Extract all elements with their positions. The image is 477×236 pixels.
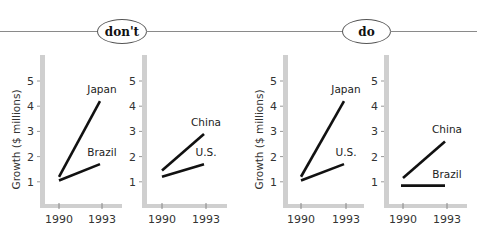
x-axis	[142, 204, 227, 208]
y-tick-label: 3	[129, 125, 136, 138]
line-chart-2: 1234519901993ChinaU.S.	[129, 55, 227, 226]
y-tick-label: 1	[270, 176, 277, 189]
y-tick-label: 5	[270, 75, 277, 88]
y-tick-label: 4	[270, 100, 277, 113]
y-axis-label: Growth ($ millions)	[10, 89, 22, 189]
series-label: Japan	[86, 83, 116, 95]
y-axis	[142, 55, 147, 208]
x-tick-label: 1990	[148, 213, 176, 226]
y-tick-label: 5	[371, 75, 378, 88]
line-chart-3: 1234519901993Growth ($ millions)JapanU.S…	[253, 55, 364, 226]
x-axis	[40, 204, 122, 208]
x-tick-label: 1990	[389, 213, 417, 226]
series-label: Brazil	[87, 146, 116, 158]
y-tick-label: 4	[129, 100, 136, 113]
y-tick-label: 2	[129, 151, 136, 164]
x-tick-label: 1993	[88, 213, 116, 226]
y-tick-label: 5	[27, 75, 34, 88]
y-tick-label: 4	[371, 100, 378, 113]
y-tick-label: 2	[371, 151, 378, 164]
series-label: U.S.	[335, 146, 356, 158]
series-label: China	[432, 123, 462, 135]
y-tick-label: 4	[27, 100, 34, 113]
x-tick-label: 1990	[287, 213, 315, 226]
y-tick-label: 1	[371, 176, 378, 189]
y-tick-label: 1	[129, 176, 136, 189]
x-tick-label: 1993	[433, 213, 461, 226]
line-chart-4: 1234519901993ChinaBrazil	[371, 55, 467, 226]
series-label: China	[191, 116, 221, 128]
x-tick-label: 1993	[332, 213, 360, 226]
y-tick-label: 3	[371, 125, 378, 138]
y-axis	[384, 55, 389, 208]
y-tick-label: 1	[27, 176, 34, 189]
y-tick-label: 2	[27, 151, 34, 164]
series-label: Brazil	[432, 168, 461, 180]
series-label: Japan	[330, 83, 360, 95]
x-axis	[384, 204, 467, 208]
x-tick-label: 1993	[192, 213, 220, 226]
x-tick-label: 1990	[45, 213, 73, 226]
series-label: U.S.	[195, 146, 216, 158]
y-tick-label: 3	[27, 125, 34, 138]
line-chart-1: 1234519901993Growth ($ millions)JapanBra…	[10, 55, 122, 226]
y-tick-label: 5	[129, 75, 136, 88]
y-tick-label: 2	[270, 151, 277, 164]
y-axis	[283, 55, 288, 208]
y-axis-label: Growth ($ millions)	[253, 89, 265, 189]
y-tick-label: 3	[270, 125, 277, 138]
x-axis	[283, 204, 364, 208]
charts-canvas: 1234519901993Growth ($ millions)JapanBra…	[0, 0, 477, 236]
y-axis	[40, 55, 45, 208]
